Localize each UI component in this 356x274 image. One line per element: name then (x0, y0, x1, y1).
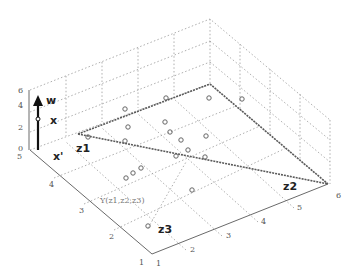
vector-w (33, 95, 43, 150)
z-tick-6: 6 (18, 86, 23, 95)
x-tick-4: 4 (261, 217, 266, 226)
label-span: Y(z1,z2,z3) (99, 196, 145, 205)
x-tick-2: 2 (190, 245, 195, 254)
label-z3: z3 (158, 223, 172, 236)
x-tick-5: 5 (297, 203, 302, 212)
label-z2: z2 (283, 180, 297, 193)
x-tick-3: 3 (226, 231, 231, 240)
floor-grid (30, 84, 328, 250)
y-tick-4: 4 (49, 180, 54, 189)
x-tick-1: 1 (156, 259, 161, 268)
y-tick-5: 5 (17, 152, 22, 161)
label-w: w (46, 94, 56, 107)
axes (29, 90, 328, 254)
label-z1: z1 (76, 142, 90, 155)
x-tick-6: 6 (336, 191, 341, 200)
z-tick-2: 2 (18, 123, 23, 132)
label-x: x (50, 114, 57, 127)
back-wall-grid (30, 19, 330, 184)
y-tick-3: 3 (79, 206, 84, 215)
3d-plot: w x x' z1 z2 z3 Y(z1,z2,z3) 6 4 2 0 5 4 … (0, 0, 356, 274)
z-tick-4: 4 (18, 101, 23, 110)
label-x-prime: x' (53, 150, 63, 163)
y-tick-2: 2 (109, 232, 114, 241)
y-tick-1: 1 (139, 258, 144, 267)
